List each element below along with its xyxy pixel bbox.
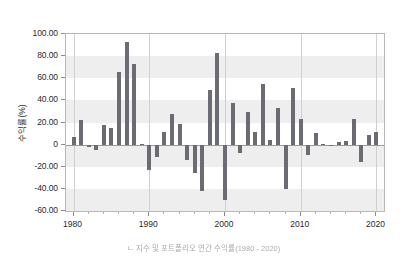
bar <box>185 145 189 160</box>
bar <box>337 142 341 145</box>
bar <box>72 137 76 144</box>
x-tick-minor <box>345 212 346 214</box>
x-gridline <box>376 34 377 211</box>
figure-caption: ㄴ 지수 및 포트폴리오 연간 수익률(1980 - 2020) <box>0 242 407 253</box>
x-tick-mark <box>148 212 149 216</box>
plot-area <box>65 33 385 212</box>
x-gridline <box>149 34 150 211</box>
x-tick-label: 1980 <box>63 219 82 229</box>
bar <box>170 114 174 144</box>
bar <box>291 88 295 144</box>
bar <box>178 124 182 144</box>
x-tick-label: 2000 <box>215 219 234 229</box>
x-tick-minor <box>330 212 331 214</box>
x-tick-minor <box>194 212 195 214</box>
x-tick-minor <box>239 212 240 214</box>
x-tick-label: 2020 <box>366 219 385 229</box>
bar <box>261 84 265 145</box>
y-tick-label: 60.00 <box>37 72 58 82</box>
y-tick-label: -40.00 <box>34 183 58 193</box>
x-tick-minor <box>118 212 119 214</box>
bar <box>155 145 159 158</box>
bar <box>367 135 371 145</box>
y-tick-label: -60.00 <box>34 205 58 215</box>
x-tick-minor <box>88 212 89 214</box>
bar <box>374 132 378 144</box>
bar <box>147 145 151 170</box>
bar <box>132 64 136 144</box>
bar <box>223 145 227 200</box>
bar <box>359 145 363 162</box>
x-tick-mark <box>73 212 74 216</box>
bar <box>321 144 325 145</box>
bar <box>238 145 242 153</box>
x-tick-mark <box>224 212 225 216</box>
chart-figure: 수익률(%) 100.0080.0060.0040.0020.000-20.00… <box>0 0 407 258</box>
x-tick-minor <box>360 212 361 214</box>
bar <box>284 145 288 190</box>
bar <box>79 120 83 145</box>
bar <box>87 145 91 147</box>
x-gridline <box>74 34 75 211</box>
x-tick-minor <box>285 212 286 214</box>
bar <box>314 133 318 145</box>
y-tick-label: 100.00 <box>33 28 58 38</box>
bar <box>102 125 106 144</box>
bar <box>246 112 250 145</box>
bar <box>253 132 257 145</box>
bar <box>200 145 204 191</box>
y-tick-label: 80.00 <box>37 50 58 60</box>
bar <box>193 145 197 174</box>
bar <box>276 108 280 145</box>
bar <box>352 119 356 144</box>
x-tick-label: 1990 <box>139 219 158 229</box>
y-tick-label: 0 <box>53 139 58 149</box>
x-tick-minor <box>315 212 316 214</box>
y-tick-label: -20.00 <box>34 161 58 171</box>
bar <box>109 128 113 145</box>
bar <box>306 145 310 156</box>
x-tick-minor <box>269 212 270 214</box>
bar <box>231 103 235 145</box>
x-tick-minor <box>163 212 164 214</box>
bar <box>208 90 212 145</box>
bar <box>299 119 303 144</box>
bar <box>329 145 333 147</box>
x-axis: 19801990200020102020 <box>65 212 385 236</box>
y-tick-label: 20.00 <box>37 117 58 127</box>
x-tick-minor <box>179 212 180 214</box>
x-tick-minor <box>103 212 104 214</box>
y-axis: 100.0080.0060.0040.0020.000-20.00-40.00-… <box>0 33 65 212</box>
bar <box>125 42 129 145</box>
y-tick-label: 40.00 <box>37 94 58 104</box>
bar <box>215 53 219 145</box>
bar <box>162 132 166 145</box>
bar <box>94 145 98 150</box>
bar <box>344 141 348 145</box>
x-tick-label: 2010 <box>290 219 309 229</box>
x-tick-minor <box>209 212 210 214</box>
x-tick-minor <box>254 212 255 214</box>
x-tick-mark <box>300 212 301 216</box>
bar <box>268 140 272 145</box>
x-tick-mark <box>375 212 376 216</box>
x-tick-minor <box>133 212 134 214</box>
bar <box>117 72 121 145</box>
bar <box>140 144 144 145</box>
